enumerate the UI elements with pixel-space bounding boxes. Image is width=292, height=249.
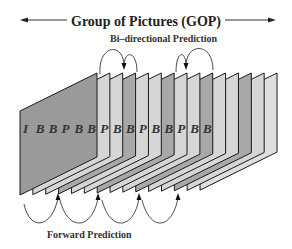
frame-type-label: B bbox=[35, 121, 45, 136]
frame-type-label: B bbox=[202, 121, 212, 136]
forward-arc-2 bbox=[60, 198, 98, 223]
frame-type-label: P bbox=[139, 121, 148, 136]
gop-title: Group of Pictures (GOP) bbox=[0, 14, 292, 30]
frame-type-label: B bbox=[86, 121, 96, 136]
frame-type-label: B bbox=[163, 121, 173, 136]
bidir-arc-4 bbox=[186, 48, 213, 70]
bidir-arc-1 bbox=[100, 50, 124, 74]
frame-type-label: B bbox=[189, 121, 199, 136]
frame-type-label: B bbox=[48, 121, 58, 136]
gop-title-text: Group of Pictures (GOP) bbox=[67, 14, 225, 29]
frame-type-label: P bbox=[62, 121, 71, 136]
bidirectional-prediction-label: Bi–directional Prediction bbox=[110, 33, 217, 44]
frame-type-label: B bbox=[151, 121, 161, 136]
forward-arc-4 bbox=[142, 198, 178, 223]
frames-stack: IBBPBBPBBPBBPBB bbox=[20, 73, 277, 195]
arrow-up-icon bbox=[96, 193, 101, 200]
forward-arc-3 bbox=[102, 198, 139, 223]
arrow-up-icon bbox=[56, 193, 61, 200]
frame-type-label: B bbox=[112, 121, 122, 136]
arrow-up-icon bbox=[137, 193, 142, 200]
arrow-down-icon bbox=[184, 63, 189, 70]
forward-prediction-label: Forward Prediction bbox=[47, 229, 132, 240]
arrow-down-icon bbox=[122, 63, 127, 70]
frame-type-label: B bbox=[73, 121, 83, 136]
frame-type-label: I bbox=[22, 121, 29, 136]
frame-type-label: P bbox=[100, 121, 109, 136]
frame-type-label: B bbox=[125, 121, 135, 136]
frame-type-label: P bbox=[177, 121, 186, 136]
gop-diagram: IBBPBBPBBPBBPBB Group of Pictures (GOP) … bbox=[0, 0, 292, 249]
forward-arc-1 bbox=[24, 198, 58, 223]
arrow-up-icon bbox=[176, 193, 181, 200]
